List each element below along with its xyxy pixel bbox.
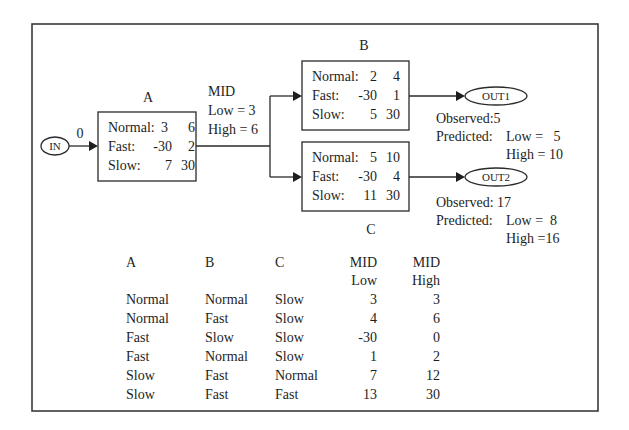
mid-high: High = 6 [208,122,258,137]
table-header-mid-high-sub: High [412,273,440,288]
node-a-row-low: 7 [165,158,172,173]
node-b-row-low: 2 [370,69,377,84]
out1-predicted-label: Predicted: [436,129,493,144]
node-a-row-state: Fast: [108,139,135,154]
input-edge-value: 0 [77,126,84,141]
out2-predicted-high: High =16 [506,231,559,246]
output-node-1: OUT1 [465,87,527,105]
out2-predicted-low: Low = 8 [506,213,557,228]
cell-c: Slow [275,292,305,307]
node-b-row-low: -30 [358,88,377,103]
cell-mid-high: 6 [433,311,440,326]
table-header-mid-low-sub: Low [351,273,378,288]
out1-predicted-low: Low = 5 [506,129,561,144]
node-a-row-low: 3 [161,120,168,135]
output-node-2: OUT2 [465,168,527,186]
node-b-row-high: 4 [393,69,400,84]
node-a-row-high: 30 [181,158,195,173]
node-b: Normal: 2 4 Fast: -30 1 Slow: 5 30 [302,61,409,130]
out2-predicted-label: Predicted: [436,213,493,228]
table-row: NormalFastSlow46 [126,311,440,326]
cell-c: Normal [275,368,318,383]
table-header-b: B [205,255,214,270]
cell-a: Normal [126,311,169,326]
node-b-row-high: 1 [393,88,400,103]
table-row: SlowFastFast1330 [126,387,440,402]
node-c-row-state: Slow: [312,188,345,203]
table-row: FastSlowSlow-300 [126,330,440,345]
arrow-head-icon [456,172,465,182]
mid-low: Low = 3 [208,103,256,118]
node-c-row-high: 30 [386,188,400,203]
cell-a: Slow [126,368,156,383]
input-label: IN [49,140,61,152]
cell-c: Slow [275,330,305,345]
out1-observed: Observed:5 [436,111,501,126]
cell-c: Slow [275,349,305,364]
cell-mid-high: 30 [426,387,440,402]
table-header-a: A [126,255,137,270]
node-c-row-state: Normal: [312,150,359,165]
node-c-row-high: 10 [386,150,400,165]
diagram-canvas: IN 0 A Normal: 3 6 Fast: -30 2 Slow: 7 3… [0,0,629,430]
out1-predicted-high: High = 10 [506,147,563,162]
out2-observed: Observed: 17 [436,195,511,210]
cell-mid-low: 1 [370,349,377,364]
table-row: SlowFastNormal712 [126,368,440,383]
cell-mid-low: 13 [363,387,377,402]
cell-b: Fast [205,368,228,383]
node-b-row-high: 30 [386,107,400,122]
cell-mid-high: 3 [433,292,440,307]
table-row: FastNormalSlow12 [126,349,440,364]
out2-stats: Observed: 17 Predicted: Low = 8 High =16 [436,195,559,246]
arrow-head-icon [89,141,98,151]
node-a-row-low: -30 [153,139,172,154]
node-a-row-high: 2 [188,139,195,154]
cell-a: Fast [126,349,149,364]
cell-mid-high: 2 [433,349,440,364]
cell-mid-high: 12 [426,368,440,383]
mid-title: MID [208,84,235,99]
arrow-head-icon [456,91,465,101]
node-a-title: A [143,90,154,105]
cell-a: Fast [126,330,149,345]
arrow-head-icon [293,172,302,182]
cell-b: Fast [205,311,228,326]
node-b-row-state: Normal: [312,69,359,84]
node-c-row-high: 4 [393,169,400,184]
cell-c: Slow [275,311,305,326]
out2-label: OUT2 [482,171,510,183]
node-b-title: B [359,38,368,53]
table-header: A B C MID Low MID High [126,255,440,288]
node-c-title: C [366,222,375,237]
node-b-row-state: Fast: [312,88,339,103]
scenario-table: A B C MID Low MID High NormalNormalSlow3… [126,255,440,402]
node-c-row-low: 11 [364,188,377,203]
node-c-row-low: -30 [358,169,377,184]
cell-b: Normal [205,292,248,307]
node-a: Normal: 3 6 Fast: -30 2 Slow: 7 30 [98,112,196,181]
cell-mid-low: 7 [370,368,377,383]
cell-c: Fast [275,387,298,402]
table-header-c: C [275,255,284,270]
node-a-row-high: 6 [188,120,195,135]
node-c: Normal: 5 10 Fast: -30 4 Slow: 11 30 [302,142,409,211]
cell-mid-high: 0 [433,330,440,345]
node-b-row-low: 5 [370,107,377,122]
input-node: IN [41,137,69,155]
table-header-mid-high: MID [413,255,440,270]
cell-b: Normal [205,349,248,364]
out1-stats: Observed:5 Predicted: Low = 5 High = 10 [436,111,563,162]
node-c-row-low: 5 [370,150,377,165]
cell-b: Fast [205,387,228,402]
cell-mid-low: -30 [358,330,377,345]
cell-mid-low: 4 [370,311,377,326]
node-b-row-state: Slow: [312,107,345,122]
table-row: NormalNormalSlow33 [126,292,440,307]
table-header-mid-low: MID [350,255,377,270]
cell-a: Normal [126,292,169,307]
cell-mid-low: 3 [370,292,377,307]
cell-b: Slow [205,330,235,345]
node-a-row-state: Slow: [108,158,141,173]
node-c-row-state: Fast: [312,169,339,184]
